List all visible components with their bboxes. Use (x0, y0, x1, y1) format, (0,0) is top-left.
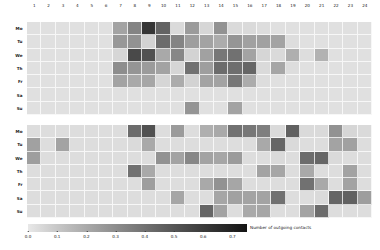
heat-cell (70, 125, 84, 138)
heat-cell (113, 125, 127, 138)
lower-weekday-label-tu: Tu (0, 138, 25, 151)
heat-cell (358, 22, 372, 35)
heat-cell (214, 88, 228, 101)
heat-cell (128, 152, 142, 165)
heat-cell (257, 191, 271, 204)
heat-cell (358, 35, 372, 48)
heat-cell (185, 22, 199, 35)
colorbar-label: Number of outgoing contacts (250, 223, 311, 232)
heat-cell (271, 165, 285, 178)
upper-weekday-label-we: We (0, 49, 25, 62)
heat-cell (329, 62, 343, 75)
heat-cell (171, 22, 185, 35)
heat-cell (286, 75, 300, 88)
heat-cell (343, 205, 357, 218)
heat-cell (315, 62, 329, 75)
heat-cell (142, 102, 156, 115)
heat-cell (358, 88, 372, 101)
heat-cell (142, 88, 156, 101)
heat-cell (300, 49, 314, 62)
heat-cell (99, 75, 113, 88)
heat-cell (85, 138, 99, 151)
heat-cell (343, 125, 357, 138)
heat-cell (171, 165, 185, 178)
heat-cell (300, 165, 314, 178)
heat-cell (200, 125, 214, 138)
hour-tick-4: 4 (70, 0, 84, 11)
heat-cell (113, 152, 127, 165)
heat-cell (185, 125, 199, 138)
heat-cell (257, 102, 271, 115)
heat-cell (185, 35, 199, 48)
heat-cell (271, 191, 285, 204)
heat-cell (27, 49, 41, 62)
heat-cell (214, 205, 228, 218)
hour-tick-15: 15 (228, 0, 242, 11)
heat-cell (41, 22, 55, 35)
heat-cell (56, 75, 70, 88)
hour-tick-7: 7 (113, 0, 127, 11)
heat-cell (300, 62, 314, 75)
heat-cell (156, 138, 170, 151)
heat-cell (99, 22, 113, 35)
heat-cell (171, 205, 185, 218)
lower-weekday-label-mo: Mo (0, 125, 25, 138)
heat-cell (41, 102, 55, 115)
lower-weekday-label-sa: Sa (0, 191, 25, 204)
hour-tick-14: 14 (214, 0, 228, 11)
heat-cell (286, 178, 300, 191)
heat-cell (315, 205, 329, 218)
heat-cell (271, 35, 285, 48)
heat-cell (70, 88, 84, 101)
upper-weekday-label-th: Th (0, 62, 25, 75)
heat-cell (70, 35, 84, 48)
heat-cell (257, 62, 271, 75)
heat-cell (343, 165, 357, 178)
heat-cell (128, 125, 142, 138)
heat-cell (99, 102, 113, 115)
colorbar-tick-0.4: 0.4 (142, 232, 149, 242)
upper-weekday-label-tu: Tu (0, 35, 25, 48)
heat-cell (156, 102, 170, 115)
colorbar (28, 224, 247, 232)
heat-cell (243, 88, 257, 101)
heat-cell (156, 191, 170, 204)
heat-cell (257, 49, 271, 62)
heat-cell (228, 22, 242, 35)
heat-cell (300, 22, 314, 35)
hour-tick-16: 16 (243, 0, 257, 11)
heat-cell (329, 102, 343, 115)
heat-cell (128, 49, 142, 62)
lower-weekday-label-th: Th (0, 165, 25, 178)
heat-cell (70, 49, 84, 62)
heat-cell (329, 49, 343, 62)
hour-tick-24: 24 (358, 0, 372, 11)
colorbar-gradient (28, 224, 247, 232)
heat-cell (85, 152, 99, 165)
heat-cell (228, 62, 242, 75)
heat-cell (358, 102, 372, 115)
heat-cell (214, 152, 228, 165)
heat-cell (315, 125, 329, 138)
heat-cell (315, 138, 329, 151)
heat-cell (358, 75, 372, 88)
hour-tick-17: 17 (257, 0, 271, 11)
heat-cell (214, 138, 228, 151)
heat-cell (257, 152, 271, 165)
heat-cell (128, 191, 142, 204)
heat-cell (315, 178, 329, 191)
heat-cell (228, 205, 242, 218)
heat-cell (85, 125, 99, 138)
colorbar-tick-0.5: 0.5 (171, 232, 178, 242)
heat-cell (56, 165, 70, 178)
heat-cell (329, 138, 343, 151)
heat-cell (99, 191, 113, 204)
heat-cell (315, 35, 329, 48)
heat-cell (27, 165, 41, 178)
hour-tick-11: 11 (171, 0, 185, 11)
heat-cell (329, 191, 343, 204)
heat-cell (286, 165, 300, 178)
heat-cell (185, 191, 199, 204)
heat-cell (41, 125, 55, 138)
heat-cell (329, 22, 343, 35)
